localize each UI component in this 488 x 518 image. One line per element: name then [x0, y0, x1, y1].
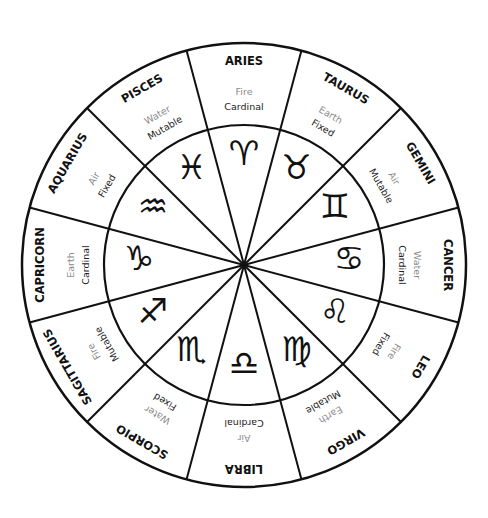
- virgo-glyph-icon: ♍︎: [281, 329, 311, 369]
- sign-element: Air: [86, 170, 102, 187]
- sagittarius-glyph-icon: ♐︎: [138, 291, 168, 331]
- sign-name: TAURUS: [320, 69, 371, 107]
- sign-name: SCORPIO: [113, 421, 170, 462]
- pisces-glyph-icon: ♓︎: [176, 147, 206, 187]
- sign-element: Water: [412, 251, 423, 279]
- sign-name: LIBRA: [225, 462, 263, 476]
- libra-glyph-icon: ♎︎: [229, 343, 259, 383]
- sign-name: GEMINI: [403, 139, 439, 187]
- sign-element: Air: [237, 433, 250, 444]
- sign-name: CANCER: [441, 239, 455, 291]
- sector-dividers: [30, 51, 459, 480]
- sign-sector-cancer: CANCERWaterCardinal♋︎: [334, 238, 455, 291]
- sign-modality: Cardinal: [397, 245, 408, 284]
- sign-sector-libra: LIBRAAirCardinal♎︎: [224, 343, 263, 476]
- sign-modality: Cardinal: [224, 418, 263, 429]
- sign-modality: Cardinal: [80, 245, 91, 284]
- aquarius-glyph-icon: ♒︎: [138, 186, 168, 226]
- sign-element: Air: [386, 170, 402, 187]
- sign-name: CAPRICORN: [33, 227, 47, 303]
- aries-glyph-icon: ♈︎: [229, 133, 259, 173]
- taurus-glyph-icon: ♉︎: [281, 147, 311, 187]
- gemini-glyph-icon: ♊︎: [320, 186, 350, 226]
- sign-sector-aries: ARIESFireCardinal♈︎: [224, 54, 263, 173]
- capricorn-glyph-icon: ♑︎: [124, 238, 154, 278]
- leo-glyph-icon: ♌︎: [320, 291, 350, 331]
- sign-sector-leo: LEOFireFixed♌︎: [302, 277, 442, 387]
- sign-element: Earth: [65, 252, 76, 277]
- zodiac-wheel: ARIESFireCardinal♈︎TAURUSEarthFixed♉︎GEM…: [0, 0, 488, 518]
- sign-name: AQUARIUS: [44, 130, 90, 195]
- sign-name: ARIES: [225, 54, 263, 68]
- sign-sector-capricorn: CAPRICORNEarthCardinal♑︎: [33, 227, 154, 303]
- cancer-glyph-icon: ♋︎: [334, 238, 364, 278]
- sign-sector-virgo: VIRGOEarthMutable♍︎: [263, 316, 373, 458]
- sign-name: LEO: [408, 353, 433, 382]
- sign-modality: Cardinal: [224, 101, 263, 112]
- scorpio-glyph-icon: ♏︎: [176, 329, 206, 369]
- sign-sector-taurus: TAURUSEarthFixed♉︎: [264, 69, 372, 203]
- sign-element: Fire: [236, 86, 253, 97]
